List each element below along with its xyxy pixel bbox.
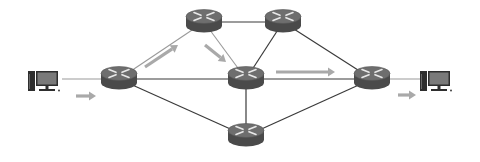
flow-arrow-head: [89, 92, 96, 101]
router-top: [101, 67, 137, 81]
router-top-left-icon: [186, 10, 222, 33]
router-top: [228, 124, 264, 138]
router-bottom-icon: [228, 124, 264, 147]
router-top: [228, 67, 264, 81]
router-right-icon: [354, 67, 390, 90]
destination-host-computer-icon: [420, 71, 452, 91]
router-top: [354, 67, 390, 81]
pc-mouse: [58, 90, 60, 92]
pc-tower: [420, 71, 427, 91]
pc-stand: [46, 86, 49, 89]
pc-screen: [38, 73, 57, 85]
flow-r1-to-r2-arrow: [145, 45, 178, 67]
pc-stand: [438, 86, 441, 89]
pc-mouse: [450, 90, 452, 92]
pc-keyboard: [431, 89, 447, 91]
router-center-icon: [228, 67, 264, 90]
flow-arrow-shaft: [205, 45, 221, 58]
flow-arrow-head: [328, 68, 335, 77]
flow-into-r1-arrow: [76, 92, 96, 101]
flow-r4-to-r5-arrow: [276, 68, 335, 77]
router-top-right-icon: [265, 10, 301, 33]
router-top: [186, 10, 222, 24]
flow-r5-to-dst-arrow: [398, 91, 416, 100]
pc-keyboard: [39, 89, 55, 91]
router-left-icon: [101, 67, 137, 90]
nodes-layer: [28, 10, 452, 147]
pc-screen: [430, 73, 449, 85]
network-diagram-canvas: [0, 0, 480, 162]
router-top: [265, 10, 301, 24]
flow-arrow-head: [409, 91, 416, 100]
link-r6-r5: [246, 79, 372, 136]
link-r1-r6: [119, 79, 246, 136]
network-diagram: [0, 0, 480, 162]
flow-arrow-shaft: [145, 49, 172, 67]
source-host-computer-icon: [28, 71, 60, 91]
pc-tower: [28, 71, 35, 91]
